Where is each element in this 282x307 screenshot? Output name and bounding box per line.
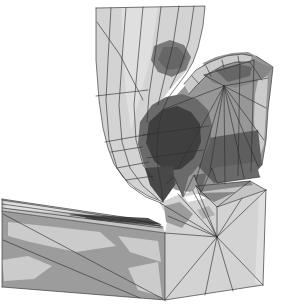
screenshot-root <box>0 0 282 307</box>
fem-mesh-figure <box>0 0 282 307</box>
